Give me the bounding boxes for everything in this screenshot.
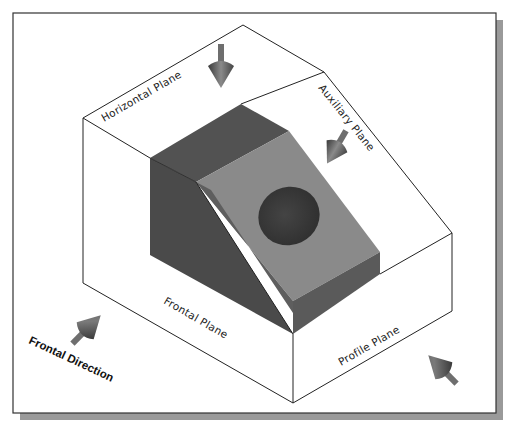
glass-box-diagram: Horizontal Plane Auxiliary Plane Frontal… [0, 0, 516, 427]
